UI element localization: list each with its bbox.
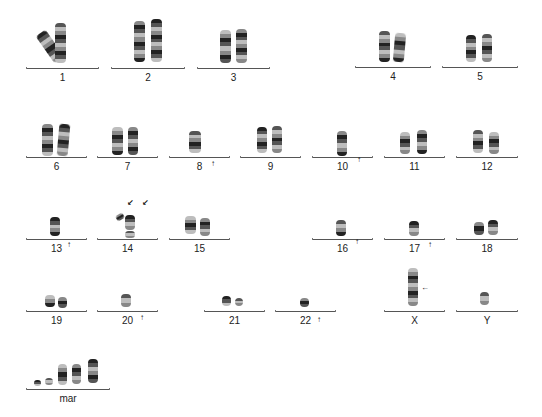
chromosome (112, 127, 123, 155)
group-baseline (169, 239, 230, 240)
chromosome-label: 21 (229, 315, 240, 326)
chromosome (50, 217, 60, 236)
chromosome (45, 378, 53, 385)
chromosome (185, 216, 196, 234)
chromosome-label: 12 (481, 161, 492, 172)
chromosome (134, 21, 145, 62)
group-baseline (97, 311, 158, 312)
group-baseline (456, 311, 518, 312)
group-baseline (26, 68, 99, 69)
group-baseline (197, 68, 270, 69)
chromosome (480, 292, 489, 305)
chromosome (58, 364, 67, 385)
chromosome (42, 124, 53, 156)
group-baseline (97, 157, 158, 158)
chromosome (115, 212, 125, 221)
group-baseline (26, 311, 87, 312)
group-baseline (26, 239, 87, 240)
chromosome (200, 218, 210, 236)
group-baseline (384, 157, 445, 158)
group-baseline (355, 67, 431, 68)
chromosome-label: 2 (145, 72, 151, 83)
chromosome-label: 13 (51, 243, 62, 254)
chromosome (236, 29, 247, 63)
chromosome (400, 132, 410, 154)
arrow-down-left-icon: ↙ (142, 199, 149, 207)
chromosome (257, 127, 267, 153)
chromosome-label: 17 (409, 243, 420, 254)
chromosome (121, 294, 131, 307)
chromosome (489, 132, 499, 154)
chromosome (235, 298, 243, 306)
arrow-up-icon: ↑ (428, 241, 432, 249)
chromosome (125, 215, 135, 230)
chromosome-label: 10 (337, 161, 348, 172)
chromosome-label: 22 (300, 315, 311, 326)
chromosome (55, 23, 66, 63)
arrow-up-icon: ↑ (211, 160, 215, 168)
chromosome-label: 7 (125, 161, 131, 172)
chromosome-label: 20 (122, 315, 133, 326)
chromosome-label: 3 (231, 72, 237, 83)
group-baseline (240, 157, 301, 158)
chromosome (473, 130, 483, 153)
chromosome (379, 31, 390, 62)
chromosome-label: 18 (481, 243, 492, 254)
arrow-up-icon: ↑ (357, 156, 361, 164)
chromosome (337, 131, 347, 156)
group-baseline (111, 68, 185, 69)
chromosome (474, 222, 484, 235)
chromosome (34, 380, 41, 386)
chromosome (272, 126, 282, 153)
arrow-down-left-icon: ↙ (127, 199, 134, 207)
chromosome (58, 297, 67, 308)
chromosome (488, 220, 498, 235)
chromosome-label: mar (59, 393, 76, 404)
chromosome-label: 9 (268, 161, 274, 172)
chromosome (336, 220, 346, 236)
chromosome-label: 19 (51, 315, 62, 326)
chromosome (128, 127, 138, 155)
chromosome-label: 6 (54, 161, 60, 172)
chromosome (88, 359, 98, 383)
group-baseline (97, 239, 158, 240)
group-baseline (442, 67, 518, 68)
chromosome-label: X (411, 315, 418, 326)
chromosome (220, 30, 231, 63)
chromosome (393, 33, 406, 63)
group-baseline (456, 239, 518, 240)
chromosome-label: 15 (194, 243, 205, 254)
chromosome (151, 19, 162, 62)
group-baseline (204, 311, 265, 312)
group-baseline (169, 157, 230, 158)
group-baseline (456, 157, 518, 158)
chromosome-label: 11 (409, 161, 419, 172)
arrow-up-icon: ↑ (355, 238, 359, 246)
chromosome (222, 296, 231, 306)
karyotype-figure: 12345678↑910↑111213↑14↙↙1516↑17↑181920↑2… (0, 0, 542, 417)
arrow-up-icon: ↑ (140, 314, 144, 322)
chromosome-label: 8 (197, 161, 203, 172)
group-baseline (275, 311, 336, 312)
chromosome-label: 5 (477, 71, 483, 82)
arrow-up-icon: ↑ (67, 241, 71, 249)
chromosome-label: 4 (390, 71, 396, 82)
chromosome (466, 35, 476, 62)
chromosome (482, 34, 492, 62)
group-baseline (384, 239, 445, 240)
group-baseline (26, 389, 110, 390)
chromosome (125, 231, 135, 238)
chromosome-label: 14 (122, 243, 133, 254)
group-baseline (26, 157, 87, 158)
arrow-up-icon: ↑ (317, 316, 321, 324)
group-baseline (384, 311, 445, 312)
chromosome (409, 221, 419, 236)
chromosome (417, 130, 427, 154)
chromosome-label: 16 (337, 243, 348, 254)
chromosome (57, 124, 71, 157)
chromosome-label: 1 (60, 72, 66, 83)
group-baseline (312, 157, 373, 158)
chromosome (300, 298, 309, 307)
chromosome (45, 295, 55, 307)
chromosome-label: Y (484, 315, 491, 326)
